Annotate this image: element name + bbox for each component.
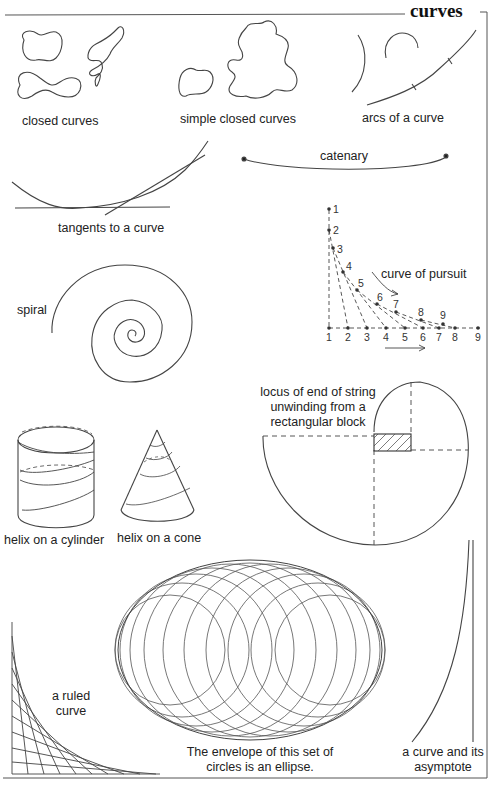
helix-cone-figure: [121, 430, 194, 521]
pursuer-8: 8: [418, 306, 424, 318]
label-helix-cone: helix on a cone: [117, 531, 201, 546]
label-ellipse-envelope: The envelope of this set of circles is a…: [180, 745, 340, 775]
label-ruled-curve: a ruled curve: [46, 689, 96, 719]
closed-curves-figure: [18, 27, 124, 99]
label-helix-cylinder: helix on a cylinder: [4, 533, 104, 548]
label-string-locus: locus of end of string unwinding from a …: [258, 385, 378, 430]
pursuer-1: 1: [333, 203, 339, 215]
label-string-locus-line2: unwinding from a: [258, 400, 378, 415]
label-string-locus-line1: locus of end of string: [258, 385, 378, 400]
target-2: 2: [345, 331, 351, 343]
label-arcs-of-a-curve: arcs of a curve: [362, 111, 444, 126]
arcs-of-a-curve-figure: [352, 30, 476, 105]
pursuer-3: 3: [337, 243, 343, 255]
label-spiral: spiral: [17, 303, 47, 318]
pursuer-7: 7: [393, 298, 399, 310]
simple-closed-curves-figure: [179, 21, 297, 98]
label-catenary: catenary: [320, 149, 368, 164]
label-envelope-line1: The envelope of this set of: [180, 745, 340, 760]
target-7: 7: [436, 331, 442, 343]
target-1: 1: [326, 331, 332, 343]
ellipse-envelope-figure: [115, 560, 385, 740]
tangents-figure: [12, 141, 208, 215]
label-asymptote-line1: a curve and its: [398, 745, 488, 760]
target-9: 9: [475, 331, 481, 343]
label-closed-curves: closed curves: [22, 114, 98, 129]
target-8: 8: [452, 331, 458, 343]
label-simple-closed-curves: simple closed curves: [180, 112, 296, 127]
page-title: curves: [410, 0, 463, 22]
spiral-figure: [52, 265, 192, 382]
label-curve-of-pursuit: curve of pursuit: [381, 267, 466, 282]
target-4: 4: [383, 331, 389, 343]
pursuer-9: 9: [440, 309, 446, 321]
pursuer-5: 5: [358, 277, 364, 289]
pursuer-6: 6: [377, 291, 383, 303]
label-tangents: tangents to a curve: [58, 221, 164, 236]
label-asymptote-line2: asymptote: [398, 760, 488, 775]
target-3: 3: [364, 331, 370, 343]
label-envelope-line2: circles is an ellipse.: [180, 760, 340, 775]
label-ruled-curve-line1: a ruled: [46, 689, 96, 704]
target-6: 6: [420, 331, 426, 343]
label-ruled-curve-line2: curve: [46, 704, 96, 719]
pursuer-4: 4: [346, 260, 352, 272]
helix-cylinder-figure: [18, 426, 94, 528]
label-string-locus-line3: rectangular block: [258, 415, 378, 430]
asymptote-figure: [412, 540, 473, 742]
target-5: 5: [402, 331, 408, 343]
pursuer-2: 2: [333, 224, 339, 236]
label-asymptote: a curve and its asymptote: [398, 745, 488, 775]
